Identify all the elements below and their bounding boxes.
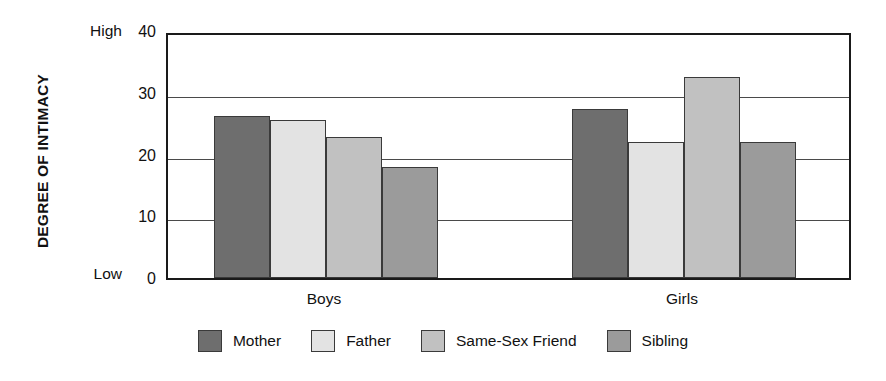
legend-item: Same-Sex Friend <box>421 330 577 352</box>
plot-area <box>166 33 851 280</box>
y-axis-tick-label: 0 <box>126 270 156 288</box>
bar <box>326 137 382 278</box>
y-axis-low-label: Low <box>62 265 122 283</box>
x-axis-category-label: Girls <box>622 290 742 308</box>
legend-swatch <box>607 330 631 352</box>
legend-label: Same-Sex Friend <box>456 332 577 350</box>
legend-item: Mother <box>198 330 281 352</box>
legend-label: Sibling <box>642 332 689 350</box>
bar-chart-figure: DEGREE OF INTIMACY High Low 010203040 Bo… <box>0 0 886 381</box>
x-axis-category-label: Boys <box>264 290 384 308</box>
legend-swatch <box>311 330 335 352</box>
y-axis-high-label: High <box>62 22 122 40</box>
y-axis-tick-label: 40 <box>126 23 156 41</box>
bar <box>270 120 326 278</box>
legend-label: Father <box>346 332 391 350</box>
legend-item: Father <box>311 330 391 352</box>
bar <box>214 116 270 278</box>
bar <box>382 167 438 278</box>
legend-swatch <box>421 330 445 352</box>
y-axis-tick-label: 20 <box>126 147 156 165</box>
legend-label: Mother <box>233 332 281 350</box>
y-axis-tick-label: 30 <box>126 85 156 103</box>
bar <box>684 77 740 278</box>
y-axis-title: DEGREE OF INTIMACY <box>34 36 52 286</box>
gridline <box>168 97 849 98</box>
bar <box>740 142 796 278</box>
bar <box>628 142 684 278</box>
bar <box>572 109 628 278</box>
legend-swatch <box>198 330 222 352</box>
legend: MotherFatherSame-Sex FriendSibling <box>0 330 886 352</box>
y-axis-tick-label: 10 <box>126 208 156 226</box>
legend-item: Sibling <box>607 330 689 352</box>
